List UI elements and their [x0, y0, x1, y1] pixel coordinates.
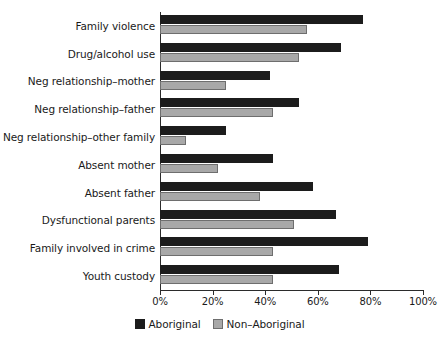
bar-aboriginal: [160, 71, 270, 80]
category-label: Neg relationship–mother: [28, 75, 155, 87]
bar-non-aboriginal: [160, 108, 273, 117]
x-tick-mark: [318, 290, 319, 295]
bar-non-aboriginal: [160, 25, 307, 34]
category-label: Family violence: [76, 20, 155, 32]
chart-row: Absent mother: [160, 151, 423, 179]
x-tick-mark: [370, 290, 371, 295]
category-label: Absent father: [85, 187, 155, 199]
plot-area: Family violenceDrug/alcohol useNeg relat…: [160, 12, 423, 290]
category-label: Neg relationship–father: [34, 103, 155, 115]
bar-chart: 0%20%40%60%80%100% Family violenceDrug/a…: [0, 0, 439, 347]
bar-non-aboriginal: [160, 53, 299, 62]
bar-non-aboriginal: [160, 81, 226, 90]
x-tick-label: 80%: [360, 296, 382, 308]
category-label: Dysfunctional parents: [42, 214, 155, 226]
chart-legend: AboriginalNon–Aboriginal: [0, 318, 439, 330]
chart-row: Neg relationship–other family: [160, 123, 423, 151]
bar-non-aboriginal: [160, 164, 218, 173]
category-label: Neg relationship–other family: [3, 131, 155, 143]
legend-swatch-icon: [213, 319, 223, 329]
bar-aboriginal: [160, 126, 226, 135]
category-label: Family involved in crime: [30, 242, 155, 254]
x-tick-label: 40%: [254, 296, 276, 308]
bar-aboriginal: [160, 15, 363, 24]
chart-row: Dysfunctional parents: [160, 207, 423, 235]
bar-non-aboriginal: [160, 247, 273, 256]
x-tick-label: 0%: [152, 296, 167, 308]
bar-non-aboriginal: [160, 220, 294, 229]
chart-row: Youth custody: [160, 262, 423, 290]
bar-aboriginal: [160, 237, 368, 246]
x-tick-mark: [423, 290, 424, 295]
legend-swatch-icon: [135, 319, 145, 329]
category-label: Drug/alcohol use: [68, 48, 155, 60]
bar-aboriginal: [160, 43, 341, 52]
chart-row: Neg relationship–father: [160, 95, 423, 123]
x-tick-label: 100%: [409, 296, 437, 308]
bar-non-aboriginal: [160, 136, 186, 145]
x-axis-line: [160, 290, 424, 291]
bar-non-aboriginal: [160, 192, 260, 201]
category-label: Youth custody: [83, 270, 155, 282]
bar-non-aboriginal: [160, 275, 273, 284]
x-tick-mark: [265, 290, 266, 295]
bar-aboriginal: [160, 265, 339, 274]
legend-label: Aboriginal: [149, 318, 201, 330]
chart-row: Neg relationship–mother: [160, 68, 423, 96]
x-tick-label: 60%: [307, 296, 329, 308]
category-label: Absent mother: [78, 159, 155, 171]
legend-label: Non–Aboriginal: [227, 318, 305, 330]
chart-row: Family violence: [160, 12, 423, 40]
bar-aboriginal: [160, 182, 313, 191]
bar-aboriginal: [160, 98, 299, 107]
legend-item: Aboriginal: [135, 318, 201, 330]
x-tick-mark: [160, 290, 161, 295]
x-tick-label: 20%: [202, 296, 224, 308]
bar-aboriginal: [160, 210, 336, 219]
chart-row: Family involved in crime: [160, 234, 423, 262]
x-tick-mark: [213, 290, 214, 295]
chart-row: Absent father: [160, 179, 423, 207]
legend-item: Non–Aboriginal: [213, 318, 305, 330]
bar-aboriginal: [160, 154, 273, 163]
chart-row: Drug/alcohol use: [160, 40, 423, 68]
